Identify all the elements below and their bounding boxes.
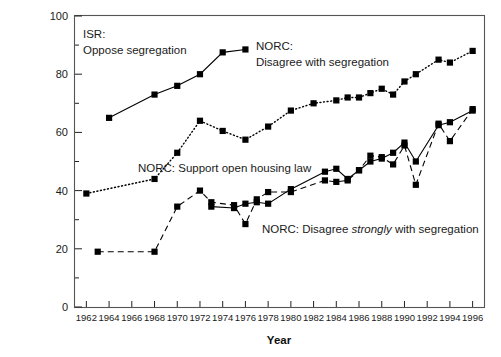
- y-tick-label: 80: [56, 68, 68, 80]
- data-point-marker: [367, 158, 373, 164]
- x-tick-label: 1976: [235, 312, 256, 323]
- data-point-marker: [174, 83, 180, 89]
- data-point-marker: [310, 100, 316, 106]
- data-point-marker: [379, 154, 385, 160]
- data-point-marker: [367, 90, 373, 96]
- y-axis-tick-labels: 020406080100: [50, 10, 68, 313]
- data-series: [83, 48, 475, 197]
- data-point-marker: [151, 249, 157, 255]
- chart-figure: 1962196419661968197019721974197619781980…: [0, 0, 501, 357]
- x-tick-label: 1962: [76, 312, 97, 323]
- x-axis-title: Year: [267, 334, 292, 346]
- chart-plot-area: 1962196419661968197019721974197619781980…: [0, 0, 501, 357]
- data-point-marker: [220, 128, 226, 134]
- data-point-marker: [231, 202, 237, 208]
- y-tick-label: 60: [56, 126, 68, 138]
- x-tick-label: 1986: [348, 312, 369, 323]
- y-tick-label: 20: [56, 243, 68, 255]
- data-series: [106, 46, 249, 121]
- data-point-marker: [345, 94, 351, 100]
- x-tick-label: 1990: [394, 312, 415, 323]
- x-tick-label: 1978: [258, 312, 279, 323]
- data-point-marker: [390, 91, 396, 97]
- x-tick-label: 1964: [99, 312, 120, 323]
- data-point-marker: [197, 188, 203, 194]
- data-point-marker: [174, 204, 180, 210]
- data-point-marker: [208, 199, 214, 205]
- data-point-marker: [197, 118, 203, 124]
- data-point-marker: [413, 182, 419, 188]
- data-point-marker: [470, 48, 476, 54]
- data-point-marker: [470, 106, 476, 112]
- data-point-marker: [435, 57, 441, 63]
- data-point-marker: [379, 86, 385, 92]
- x-tick-label: 1980: [280, 312, 301, 323]
- data-point-marker: [447, 59, 453, 65]
- data-point-marker: [322, 177, 328, 183]
- data-point-marker: [413, 158, 419, 164]
- data-series-layer: [83, 46, 475, 254]
- data-point-marker: [95, 249, 101, 255]
- data-point-marker: [367, 153, 373, 159]
- data-point-marker: [447, 119, 453, 125]
- data-point-marker: [174, 150, 180, 156]
- x-axis-tick-labels: 1962196419661968197019721974197619781980…: [76, 312, 483, 323]
- data-point-marker: [356, 167, 362, 173]
- data-point-marker: [242, 46, 248, 52]
- data-point-marker: [435, 121, 441, 127]
- data-point-marker: [254, 196, 260, 202]
- data-point-marker: [220, 49, 226, 55]
- data-point-marker: [401, 78, 407, 84]
- data-point-marker: [288, 189, 294, 195]
- data-point-marker: [390, 161, 396, 167]
- data-point-marker: [265, 123, 271, 129]
- y-axis-ticks: [75, 16, 82, 307]
- data-point-marker: [356, 94, 362, 100]
- data-point-marker: [322, 169, 328, 175]
- data-point-marker: [333, 97, 339, 103]
- x-tick-label: 1996: [462, 312, 483, 323]
- x-tick-label: 1994: [439, 312, 460, 323]
- data-point-marker: [413, 71, 419, 77]
- data-point-marker: [242, 201, 248, 207]
- x-tick-label: 1992: [417, 312, 438, 323]
- data-point-marker: [265, 189, 271, 195]
- data-point-marker: [333, 166, 339, 172]
- data-point-marker: [151, 91, 157, 97]
- data-point-marker: [390, 150, 396, 156]
- x-tick-label: 1988: [371, 312, 392, 323]
- x-axis-ticks: [86, 301, 472, 307]
- x-tick-label: 1974: [212, 312, 233, 323]
- data-point-marker: [265, 201, 271, 207]
- plot-frame: [75, 16, 485, 308]
- data-point-marker: [333, 179, 339, 185]
- data-point-marker: [242, 137, 248, 143]
- data-point-marker: [447, 138, 453, 144]
- x-tick-label: 1966: [121, 312, 142, 323]
- x-tick-label: 1970: [167, 312, 188, 323]
- data-point-marker: [345, 177, 351, 183]
- data-point-marker: [242, 221, 248, 227]
- data-point-marker: [197, 71, 203, 77]
- data-point-marker: [151, 176, 157, 182]
- y-tick-label: 0: [62, 301, 68, 313]
- x-tick-label: 1984: [326, 312, 347, 323]
- x-tick-label: 1968: [144, 312, 165, 323]
- x-tick-label: 1982: [303, 312, 324, 323]
- data-point-marker: [401, 142, 407, 148]
- series-line: [211, 111, 472, 208]
- y-tick-label: 100: [50, 10, 68, 22]
- data-point-marker: [106, 115, 112, 121]
- data-point-marker: [83, 190, 89, 196]
- y-tick-label: 40: [56, 185, 68, 197]
- data-point-marker: [288, 107, 294, 113]
- x-tick-label: 1972: [189, 312, 210, 323]
